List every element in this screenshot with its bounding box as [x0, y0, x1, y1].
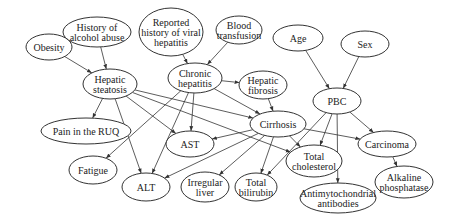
node-label: hepatitis — [178, 78, 212, 89]
node-label: phosphatase — [380, 182, 429, 193]
node-cirrhosis: Cirrhosis — [250, 111, 306, 137]
node-label: transfusion — [217, 30, 261, 41]
node-alt: ALT — [122, 173, 170, 201]
edge-arrow — [337, 114, 338, 183]
node-label: antibodies — [317, 198, 358, 209]
edge-pbc-to-carcinoma — [350, 112, 374, 133]
node-sex: Sex — [341, 31, 389, 57]
node-label: PBC — [328, 96, 347, 107]
edge-arrow — [207, 42, 228, 64]
node-label: fibrosis — [248, 85, 278, 96]
node-label: cholesterol — [292, 161, 336, 172]
node-label: steatosis — [93, 84, 127, 95]
bayesian-network-diagram: History ofalcohol abuseObesityReportedhi… — [0, 0, 462, 218]
node-ast: AST — [166, 131, 214, 157]
edge-pbc-to-antibodies — [337, 114, 338, 183]
edge-arrow — [268, 99, 273, 112]
edge-arrow — [212, 130, 253, 139]
edge-age-to-pbc — [306, 50, 330, 88]
edge-arrow — [93, 98, 103, 118]
edge-arrow — [261, 137, 274, 174]
node-chronic: Chronichepatitis — [168, 63, 222, 93]
edge-arrow — [350, 112, 374, 133]
node-irregular: Irregularliver — [181, 172, 229, 202]
node-label: liver — [196, 187, 215, 198]
edge-chronic-to-ast — [191, 93, 194, 131]
node-pbc: PBC — [313, 88, 361, 114]
node-antibodies: Antimytochondrialantibodies — [300, 183, 376, 213]
edge-arrow — [191, 93, 194, 131]
node-label: hepatitis — [154, 37, 188, 48]
edge-cirrhosis-to-bilirubin — [261, 137, 274, 174]
edge-alcohol-to-steatosis — [101, 47, 107, 69]
edge-arrow — [65, 57, 92, 73]
node-alcohol: History ofalcohol abuse — [63, 17, 131, 47]
node-alkaline: Alkalinephosphatase — [375, 166, 433, 198]
node-bilirubin: Totalbilirubin — [235, 173, 277, 201]
node-label: alcohol abuse — [70, 32, 125, 43]
edge-cirrhosis-to-ast — [212, 130, 253, 139]
edge-carcinoma-to-alkaline — [393, 157, 397, 167]
node-label: ALT — [137, 182, 156, 193]
node-label: Sex — [358, 39, 373, 50]
edge-pbc-to-cholesterol — [320, 114, 332, 146]
edge-obesity-to-steatosis — [65, 57, 92, 73]
node-viral: Reportedhistory of viralhepatitis — [139, 8, 203, 56]
node-label: AST — [181, 139, 200, 150]
node-label: Pain in the RUQ — [53, 126, 120, 137]
node-label: bilirubin — [239, 187, 273, 198]
node-age: Age — [273, 25, 323, 51]
diagram-canvas: History ofalcohol abuseObesityReportedhi… — [0, 0, 462, 218]
node-label: Obesity — [33, 42, 64, 53]
edge-arrow — [183, 54, 188, 63]
edge-transfusion-to-chronic — [207, 42, 228, 64]
node-label: Age — [290, 33, 307, 44]
node-ruq: Pain in the RUQ — [41, 118, 131, 144]
node-carcinoma: Carcinoma — [358, 131, 416, 157]
edge-arrow — [320, 114, 332, 146]
edge-arrow — [393, 157, 397, 167]
edge-sex-to-pbc — [343, 57, 359, 89]
edge-arrow — [343, 57, 359, 89]
node-fatigue: Fatigue — [69, 156, 117, 184]
node-label: Carcinoma — [365, 139, 409, 150]
node-obesity: Obesity — [26, 34, 72, 60]
node-fibrosis: Hepaticfibrosis — [239, 71, 287, 99]
node-cholesterol: Totalcholesterol — [286, 145, 342, 177]
edge-viral-to-chronic — [183, 54, 188, 63]
node-label: Fatigue — [78, 165, 109, 176]
edge-arrow — [304, 129, 360, 139]
edge-arrow — [222, 81, 240, 83]
node-label: Cirrhosis — [260, 119, 297, 130]
edge-cirrhosis-to-carcinoma — [304, 129, 360, 139]
node-transfusion: Bloodtransfusion — [216, 16, 262, 44]
edge-fibrosis-to-cirrhosis — [268, 99, 273, 112]
edge-arrow — [101, 47, 107, 69]
edge-steatosis-to-ruq — [93, 98, 103, 118]
edge-arrow — [306, 50, 330, 88]
nodes-layer: History ofalcohol abuseObesityReportedhi… — [26, 8, 433, 213]
edge-chronic-to-fibrosis — [222, 81, 240, 83]
node-steatosis: Hepaticsteatosis — [83, 69, 137, 99]
